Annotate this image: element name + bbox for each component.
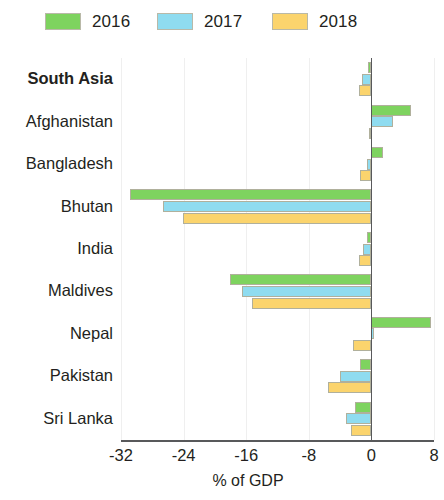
category-label: Bhutan	[1, 198, 113, 215]
legend-label-2016: 2016	[92, 13, 130, 30]
bar	[242, 286, 372, 297]
bar	[359, 85, 372, 96]
gridline	[121, 58, 122, 440]
category-label: Nepal	[1, 325, 113, 342]
legend-swatch-2016	[45, 13, 81, 30]
category-label: India	[1, 240, 113, 257]
x-axis-title-text: % of GDP	[212, 472, 283, 489]
x-axis-line	[121, 440, 434, 442]
bar	[328, 382, 371, 393]
legend-swatch-2018	[272, 13, 308, 30]
x-axis-title: % of GDP	[0, 472, 444, 490]
chart-legend: 2016 2017 2018	[0, 0, 444, 46]
bar	[252, 298, 372, 309]
bar	[371, 147, 383, 158]
x-tick-label: -16	[234, 446, 258, 464]
x-tick-label: 8	[429, 446, 438, 464]
x-tick-label: -32	[109, 446, 133, 464]
bar	[351, 425, 371, 436]
bar	[230, 274, 372, 285]
category-label: Maldives	[1, 282, 113, 299]
gridline	[309, 58, 310, 440]
x-tick-label: -8	[301, 446, 316, 464]
bar-chart: South AsiaAfghanistanBangladeshBhutanInd…	[0, 46, 444, 500]
bar	[340, 371, 371, 382]
bar	[355, 402, 371, 413]
bar	[371, 105, 410, 116]
bar	[353, 340, 372, 351]
zero-axis-line	[371, 58, 373, 440]
legend-item-2017: 2017	[157, 10, 242, 32]
bar	[371, 116, 392, 127]
bar	[359, 255, 372, 266]
gridline	[434, 58, 435, 440]
legend-item-2016: 2016	[45, 10, 130, 32]
bar	[371, 317, 430, 328]
bar	[130, 189, 371, 200]
category-axis-labels: South AsiaAfghanistanBangladeshBhutanInd…	[0, 58, 113, 440]
category-label: Pakistan	[1, 367, 113, 384]
bar	[163, 201, 371, 212]
legend-label-2017: 2017	[204, 13, 242, 30]
gridline	[184, 58, 185, 440]
category-label: Afghanistan	[1, 113, 113, 130]
legend-swatch-2017	[157, 13, 193, 30]
plot-area	[121, 58, 434, 440]
x-tick-label: 0	[367, 446, 376, 464]
bar	[346, 413, 371, 424]
legend-label-2018: 2018	[319, 13, 357, 30]
x-tick-label: -24	[172, 446, 196, 464]
category-label: South Asia	[1, 70, 113, 87]
gridline	[246, 58, 247, 440]
category-label: Bangladesh	[1, 155, 113, 172]
category-label: Sri Lanka	[1, 410, 113, 427]
bar	[183, 213, 372, 224]
legend-item-2018: 2018	[272, 10, 357, 32]
